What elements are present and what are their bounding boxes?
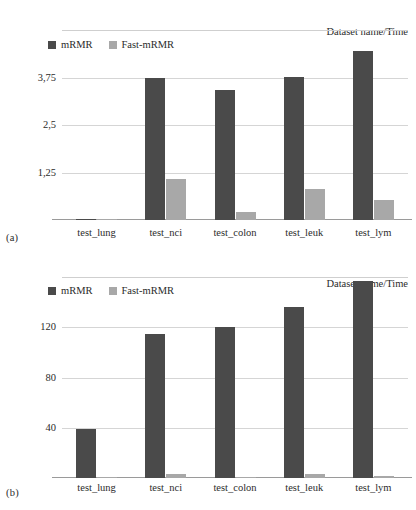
x-axis-labels-b: test_lungtest_ncitest_colontest_leuktest… <box>0 483 416 497</box>
y-axis-tick-label: 80 <box>6 373 56 384</box>
bar-fast-mrmr-test_colon <box>236 477 256 479</box>
figure-container: Dataset name/Time mRMR Fast-mRMR (a) 1,2… <box>0 0 416 510</box>
bar-mrmr-test_lung <box>76 429 96 478</box>
y-axis-tick-label: 1,25 <box>6 168 56 179</box>
bar-mrmr-test_colon <box>215 90 235 220</box>
y-axis-tick-label: 2,5 <box>6 120 56 131</box>
x-axis-labels-a: test_lungtest_ncitest_colontest_leuktest… <box>0 228 416 242</box>
bar-mrmr-test_colon <box>215 327 235 478</box>
legend-swatch-icon-mrmr-b <box>48 287 56 295</box>
y-axis-tick-label: 40 <box>6 423 56 434</box>
bar-fast-mrmr-test_nci <box>166 179 186 220</box>
plot-area-b: 4080120 <box>62 277 408 478</box>
bar-mrmr-test_leuk <box>284 307 304 478</box>
bar-fast-mrmr-test_lung <box>97 219 117 221</box>
plot-top-rule <box>62 30 408 31</box>
bar-mrmr-test_nci <box>145 78 165 221</box>
y-axis-tick-label: 120 <box>6 322 56 333</box>
bar-fast-mrmr-test_nci <box>166 474 186 478</box>
bar-mrmr-test_lung <box>76 219 96 221</box>
y-axis-tick-label: 3,75 <box>6 73 56 84</box>
bar-mrmr-test_nci <box>145 334 165 478</box>
bar-mrmr-test_lym <box>353 51 373 220</box>
bar-fast-mrmr-test_leuk <box>305 474 325 478</box>
chart-panel-b: Dataset name/Time mRMR Fast-mRMR (b) 408… <box>0 255 416 510</box>
x-axis-label-test_lym: test_lym <box>323 228 416 239</box>
plot-area-a: 1,252,53,75 <box>62 30 408 220</box>
bar-fast-mrmr-test_lung <box>97 477 117 479</box>
chart-panel-a: Dataset name/Time mRMR Fast-mRMR (a) 1,2… <box>0 0 416 255</box>
bar-fast-mrmr-test_lym <box>374 200 394 220</box>
bar-mrmr-test_leuk <box>284 77 304 220</box>
bar-fast-mrmr-test_lym <box>374 476 394 479</box>
bar-fast-mrmr-test_leuk <box>305 189 325 220</box>
legend-swatch-icon-mrmr-a <box>48 41 56 49</box>
plot-top-rule <box>62 277 408 278</box>
bar-mrmr-test_lym <box>353 281 373 478</box>
x-axis-label-test_lym: test_lym <box>323 483 416 494</box>
bar-fast-mrmr-test_colon <box>236 212 256 220</box>
